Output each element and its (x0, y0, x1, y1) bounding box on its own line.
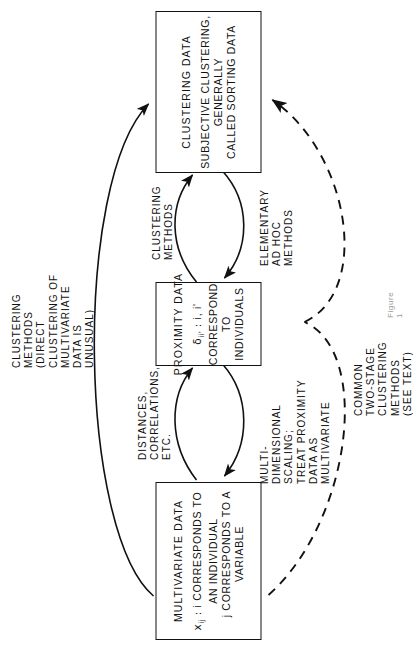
symbol-delta-ii: δii' : (190, 323, 202, 345)
node-clustering-data-title: CLUSTERING DATA (179, 35, 191, 149)
node-clustering-data[interactable]: CLUSTERING DATA SUBJECTIVE CLUSTERING, G… (155, 11, 261, 173)
edge-mv-to-prox (174, 368, 196, 480)
figure-page: MULTIVARIATE DATA xij : i CORRESPONDS TO… (0, 0, 413, 652)
node-proximity-data-title: PROXIMITY DATA (171, 273, 183, 375)
clust-detail-2: CALLED SORTING DATA (224, 25, 236, 159)
label-two-stage-methods: COMMON TWO-STAGE CLUSTERING METHODS (SEE… (352, 342, 413, 416)
edge-prox-to-mv (222, 364, 243, 476)
edge-prox-to-clust (174, 175, 196, 282)
node-clustering-data-detail: SUBJECTIVE CLUSTERING, GENERALLY CALLED … (198, 12, 237, 172)
node-multivariate-data-detail: xij : i CORRESPONDS TO AN INDIVIDUAL j C… (190, 483, 245, 639)
node-multivariate-data[interactable]: MULTIVARIATE DATA xij : i CORRESPONDS TO… (155, 482, 261, 640)
mv-detail-2: j CORRESPONDS TO A VARIABLE (219, 483, 245, 625)
label-elementary-ad-hoc: ELEMENTARY AD HOC METHODS (258, 189, 295, 266)
label-multidimensional-scaling: MULTI- DIMENSIONAL SCALING; TREAT PROXIM… (258, 379, 331, 484)
label-distances-correlations: DISTANCES, CORRELATIONS, ETC. (136, 366, 173, 460)
symbol-x-ij: xij : (190, 611, 202, 630)
edge-direct-clustering-arc (94, 104, 153, 596)
node-multivariate-data-title: MULTIVARIATE DATA (171, 500, 183, 622)
label-direct-clustering: CLUSTERING METHODS (DIRECT CLUSTERING OF… (10, 274, 95, 368)
node-proximity-data-detail: δii' : i, i' CORRESPOND TO INDIVIDUALS (190, 283, 245, 365)
edge-clust-to-prox (222, 171, 243, 278)
figure-caption: Figure 1 (386, 291, 404, 318)
node-proximity-data[interactable]: PROXIMITY DATA δii' : i, i' CORRESPOND T… (155, 282, 261, 366)
clust-detail-1: SUBJECTIVE CLUSTERING, GENERALLY (198, 15, 223, 169)
label-clustering-methods: CLUSTERING METHODS (150, 186, 174, 260)
diagram-stage: MULTIVARIATE DATA xij : i CORRESPONDS TO… (0, 0, 413, 652)
mv-detail-1: i CORRESPONDS TO AN INDIVIDUAL (190, 492, 217, 608)
